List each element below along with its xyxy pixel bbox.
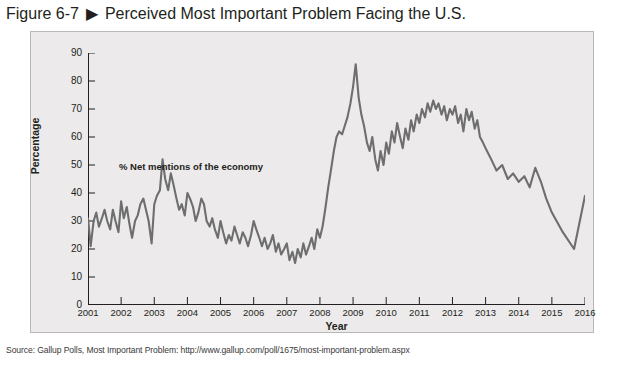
- x-axis-title: Year: [88, 320, 585, 332]
- figure-title: Perceived Most Important Problem Facing …: [105, 5, 466, 23]
- y-axis-title: Percentage: [29, 91, 41, 201]
- series-annotation-label: % Net mentions of the economy: [119, 161, 263, 172]
- y-tick-label: 80: [58, 76, 82, 86]
- y-tick-label: 10: [58, 272, 82, 282]
- y-axis-ticks: [89, 53, 96, 305]
- chart-panel: Percentage Year 0102030405060708090 2001…: [30, 31, 594, 333]
- triangle-right-icon: ▶: [86, 4, 98, 23]
- y-tick-label: 50: [58, 160, 82, 170]
- source-note: Source: Gallup Polls, Most Important Pro…: [6, 345, 410, 355]
- y-tick-label: 30: [58, 216, 82, 226]
- y-tick-label: 40: [58, 188, 82, 198]
- x-axis-ticks: [88, 297, 585, 305]
- y-tick-label: 20: [58, 244, 82, 254]
- plot-area: 0102030405060708090 20012002200320042005…: [88, 53, 585, 305]
- x-tick-label: 2016: [565, 308, 605, 318]
- figure-number: Figure 6-7: [6, 5, 79, 23]
- axis-lines: [89, 53, 586, 305]
- y-tick-label: 60: [58, 132, 82, 142]
- figure-header: Figure 6-7 ▶ Perceived Most Important Pr…: [6, 4, 466, 23]
- y-tick-label: 90: [58, 48, 82, 58]
- y-tick-label: 70: [58, 104, 82, 114]
- line-chart-svg: [88, 53, 585, 305]
